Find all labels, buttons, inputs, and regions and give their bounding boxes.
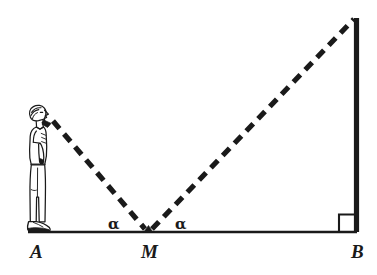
angle-label-left: α (108, 215, 120, 233)
raised-hand-shape (43, 120, 51, 128)
figure-canvas: α α A M B (0, 0, 377, 275)
point-m-label: M (140, 241, 159, 262)
observer-person-figure (28, 105, 51, 231)
point-b-label: B (350, 241, 364, 262)
geometry-figure: α α A M B (0, 0, 377, 275)
point-a-label: A (29, 241, 43, 262)
right-angle-marker-icon (339, 215, 354, 233)
sightline-left-dashed (53, 121, 145, 229)
sightline-right-dashed (152, 19, 354, 229)
angle-label-right: α (175, 215, 187, 233)
